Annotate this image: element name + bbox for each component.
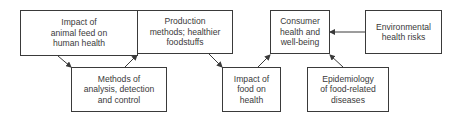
arrow-production-to-impact-food	[209, 54, 222, 67]
arrow-animal-feed-to-methods	[58, 56, 71, 67]
node-label: Epidemiology of food-related diseases	[320, 74, 375, 106]
node-production-methods: Production methods; healthier foodstuffs	[137, 10, 233, 54]
node-epidemiology: Epidemiology of food-related diseases	[307, 67, 389, 112]
arrow-impact-food-to-consumer	[258, 55, 270, 67]
node-label: Impact of food on health	[234, 74, 269, 106]
arrow-epidemiology-to-consumer	[330, 55, 343, 67]
node-label: Environmental health risks	[376, 22, 431, 43]
node-label: Impact of animal feed on human health	[51, 17, 107, 49]
node-label: Methods of analysis, detection and contr…	[84, 74, 155, 106]
node-environmental-health-risks: Environmental health risks	[365, 10, 442, 54]
node-label: Consumer health and well-being	[280, 16, 320, 48]
node-methods-of-analysis: Methods of analysis, detection and contr…	[71, 67, 167, 112]
node-label: Production methods; healthier foodstuffs	[150, 16, 221, 48]
node-consumer-health: Consumer health and well-being	[270, 10, 330, 54]
node-impact-of-food: Impact of food on health	[222, 67, 281, 112]
arrow-methods-to-production	[125, 55, 137, 67]
node-animal-feed-impact: Impact of animal feed on human health	[20, 10, 138, 56]
